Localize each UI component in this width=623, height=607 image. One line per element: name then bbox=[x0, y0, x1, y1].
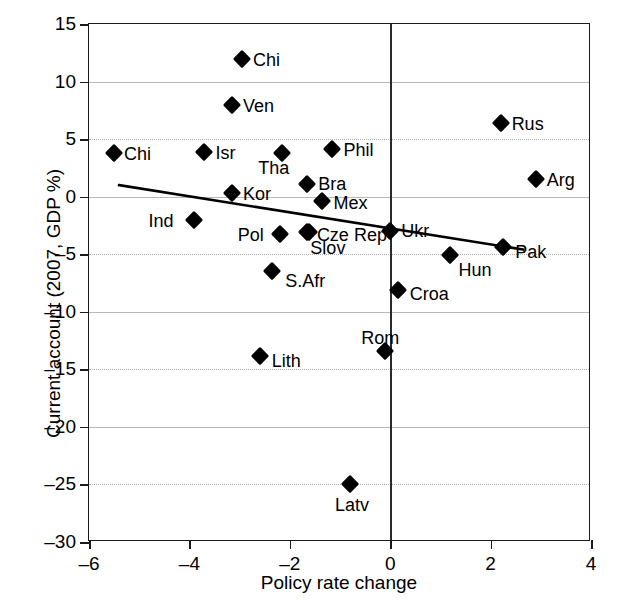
gridline bbox=[89, 369, 589, 371]
scatter-chart: Current account (2007, GDP %) Policy rat… bbox=[0, 0, 623, 607]
y-axis-tick-label: –30 bbox=[44, 531, 76, 553]
data-point-label: Phil bbox=[343, 141, 373, 159]
gridline bbox=[89, 484, 589, 486]
data-point-label: Kor bbox=[243, 185, 271, 203]
data-point-label: Pak bbox=[515, 243, 546, 261]
data-point-marker bbox=[263, 262, 281, 280]
data-point-label: Ukr bbox=[401, 222, 429, 240]
data-point-label: Bra bbox=[318, 175, 346, 193]
x-axis-tick-label: –2 bbox=[279, 553, 300, 575]
y-axis-tick-label: 10 bbox=[55, 71, 76, 93]
x-axis-tick-label: –4 bbox=[179, 553, 200, 575]
data-point-marker bbox=[298, 175, 316, 193]
data-point-label: Pol bbox=[238, 226, 264, 244]
x-axis-tick bbox=[290, 540, 292, 549]
x-axis-tick bbox=[189, 540, 191, 549]
gridline bbox=[89, 139, 589, 141]
data-point-label: Mex bbox=[333, 194, 367, 212]
data-point-label: Croa bbox=[410, 285, 449, 303]
trend-line bbox=[89, 24, 589, 540]
data-point-marker bbox=[223, 184, 241, 202]
data-point-label: Arg bbox=[547, 171, 575, 189]
data-point-marker bbox=[223, 95, 241, 113]
data-point-label: Hun bbox=[458, 261, 491, 279]
y-axis-tick bbox=[80, 312, 89, 314]
y-axis-tick bbox=[80, 254, 89, 256]
x-axis-tick-label: –6 bbox=[78, 553, 99, 575]
data-point-marker bbox=[491, 114, 509, 132]
y-axis-tick bbox=[80, 369, 89, 371]
x-axis-tick-label: 0 bbox=[385, 553, 396, 575]
y-axis-tick-label: –10 bbox=[44, 301, 76, 323]
y-axis-tick bbox=[80, 139, 89, 141]
y-axis-tick bbox=[80, 484, 89, 486]
y-axis-tick-label: 5 bbox=[65, 128, 76, 150]
data-point-marker bbox=[250, 346, 268, 364]
data-point-label: S.Afr bbox=[285, 272, 325, 290]
y-axis-tick bbox=[80, 197, 89, 199]
gridline bbox=[89, 312, 589, 313]
data-point-label: Chi bbox=[253, 51, 280, 69]
gridline bbox=[89, 82, 589, 83]
x-axis-tick bbox=[591, 540, 593, 549]
data-point-label: Isr bbox=[215, 144, 235, 162]
data-point-label: Chi bbox=[124, 145, 151, 163]
data-point-marker bbox=[271, 224, 289, 242]
y-axis-tick bbox=[80, 24, 89, 26]
x-axis-tick-label: 2 bbox=[485, 553, 496, 575]
data-point-marker bbox=[527, 170, 545, 188]
data-point-marker bbox=[105, 144, 123, 162]
data-point-label: Ven bbox=[243, 97, 274, 115]
x-axis-title: Policy rate change bbox=[88, 572, 590, 594]
data-point-label: Rus bbox=[512, 115, 544, 133]
data-point-marker bbox=[441, 246, 459, 264]
y-axis-tick-label: –20 bbox=[44, 416, 76, 438]
y-axis-tick-label: 0 bbox=[65, 186, 76, 208]
data-point-label: Rom bbox=[361, 329, 399, 347]
data-point-label: Lith bbox=[272, 352, 301, 370]
data-point-label: Ind bbox=[148, 212, 173, 230]
y-axis-tick bbox=[80, 427, 89, 429]
data-point-marker bbox=[195, 143, 213, 161]
y-axis-tick bbox=[80, 82, 89, 84]
data-point-label: Cze Rep bbox=[317, 226, 387, 244]
y-axis-tick-label: –25 bbox=[44, 473, 76, 495]
y-axis-tick bbox=[80, 542, 89, 544]
data-point-marker bbox=[233, 49, 251, 67]
y-axis-tick-label: –15 bbox=[44, 358, 76, 380]
gridline bbox=[89, 427, 589, 428]
data-point-label: Latv bbox=[335, 496, 369, 514]
data-point-label: Tha bbox=[258, 159, 289, 177]
x-axis-tick-label: 4 bbox=[586, 553, 597, 575]
x-axis-tick bbox=[89, 540, 91, 549]
y-axis-tick-label: 15 bbox=[55, 13, 76, 35]
data-point-marker bbox=[323, 140, 341, 158]
y-axis-tick-label: –5 bbox=[55, 243, 76, 265]
data-point-marker bbox=[185, 210, 203, 228]
x-axis-tick bbox=[491, 540, 493, 549]
data-point-marker bbox=[341, 475, 359, 493]
x-axis-tick bbox=[390, 540, 392, 549]
data-point-marker bbox=[313, 192, 331, 210]
zero-vertical-line bbox=[390, 24, 391, 540]
plot-area: 151050–5–10–15–20–25–30 –6–4–2024 ChiVen… bbox=[88, 23, 590, 541]
